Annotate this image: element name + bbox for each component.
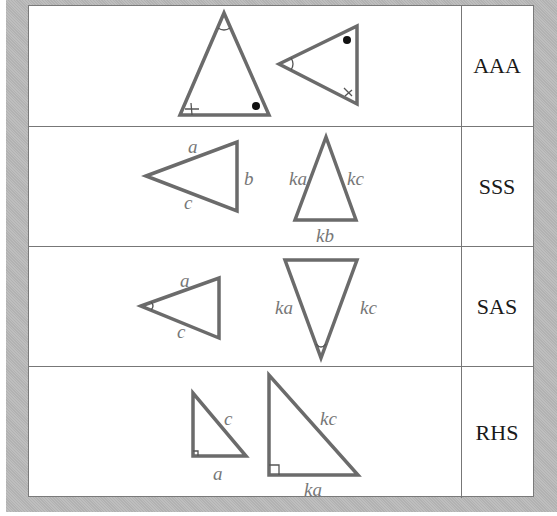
angle-arc-mark (218, 28, 230, 30)
triangle-1 (180, 13, 269, 115)
side-label-kb: kb (316, 226, 334, 245)
side-label-ka: ka (289, 169, 307, 188)
angle-dot-mark (343, 36, 351, 44)
rule-label-rhs: RHS (461, 367, 533, 498)
sss-triangles-figure (1, 127, 461, 247)
side-label-a: a (188, 137, 198, 156)
side-label-ka: ka (275, 298, 293, 317)
side-label-c: c (224, 409, 232, 428)
side-label-c: c (177, 322, 185, 341)
side-label-b: b (244, 169, 254, 188)
row-sas: a c ka kc SAS (29, 247, 533, 367)
figure-cell-sas: a c ka kc (29, 247, 462, 366)
triangle-1 (193, 393, 246, 456)
angle-arc-mark (291, 58, 293, 70)
angle-dot-mark (252, 102, 260, 110)
row-sss: a b c ka kc kb SSS (29, 127, 533, 247)
rhs-triangles-figure (1, 367, 461, 498)
side-label-c: c (184, 193, 192, 212)
row-rhs: c a kc ka RHS (29, 367, 533, 498)
row-aaa: AAA (29, 6, 533, 127)
similarity-rules-table: AAA a b c ka kc kb SSS (28, 5, 534, 497)
angle-cross-mark (185, 103, 199, 115)
side-label-a: a (213, 464, 223, 483)
side-label-a: a (180, 271, 190, 290)
rule-label-aaa: AAA (461, 6, 533, 126)
angle-arc-mark (151, 302, 153, 310)
side-label-kc: kc (320, 409, 337, 428)
aaa-triangles-figure (1, 6, 461, 127)
figure-cell-sss: a b c ka kc kb (29, 127, 462, 246)
angle-cross-mark (344, 88, 352, 96)
triangle-2 (285, 260, 357, 358)
rule-label-sas: SAS (461, 247, 533, 366)
side-label-kc: kc (360, 298, 377, 317)
sas-triangles-figure (1, 247, 461, 367)
triangle-2 (269, 375, 358, 475)
rule-label-sss: SSS (461, 127, 533, 246)
side-label-kc: kc (347, 169, 364, 188)
figure-cell-aaa (29, 6, 462, 126)
figure-cell-rhs: c a kc ka (29, 367, 462, 498)
side-label-ka: ka (304, 480, 322, 499)
